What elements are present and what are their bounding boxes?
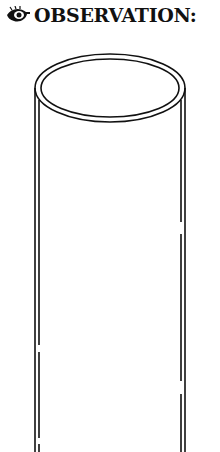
tube-illustration: [0, 0, 220, 452]
